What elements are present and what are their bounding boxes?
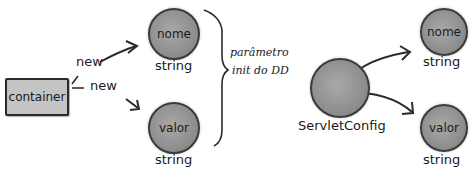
new-label-top: new [76,54,103,69]
node-nome-left: nome [148,8,200,60]
type-label: string [155,58,192,73]
node-valor-left: valor [148,102,200,154]
node-label: nome [427,25,461,39]
type-label: string [423,152,460,167]
node-nome-right: nome [420,8,468,56]
tick-mark [72,76,78,84]
brace-note-line2: init do DD [232,64,289,77]
arrow-to-nome [100,46,136,62]
container-label: container [9,90,66,104]
node-label: nome [157,27,191,41]
servletconfig-label: ServletConfig [298,118,386,133]
connectors [0,0,476,172]
curly-brace-icon [204,10,228,146]
type-label: string [155,152,192,167]
node-servletconfig [310,58,370,118]
new-label-bottom: new [90,78,117,93]
type-label: string [423,54,460,69]
diagram: container new new nome string valor stri… [0,0,476,172]
node-label: valor [429,121,459,135]
brace-note-line1: parâmetro [230,46,289,59]
node-valor-right: valor [420,104,468,152]
node-label: valor [159,121,189,135]
container-box: container [5,78,69,116]
